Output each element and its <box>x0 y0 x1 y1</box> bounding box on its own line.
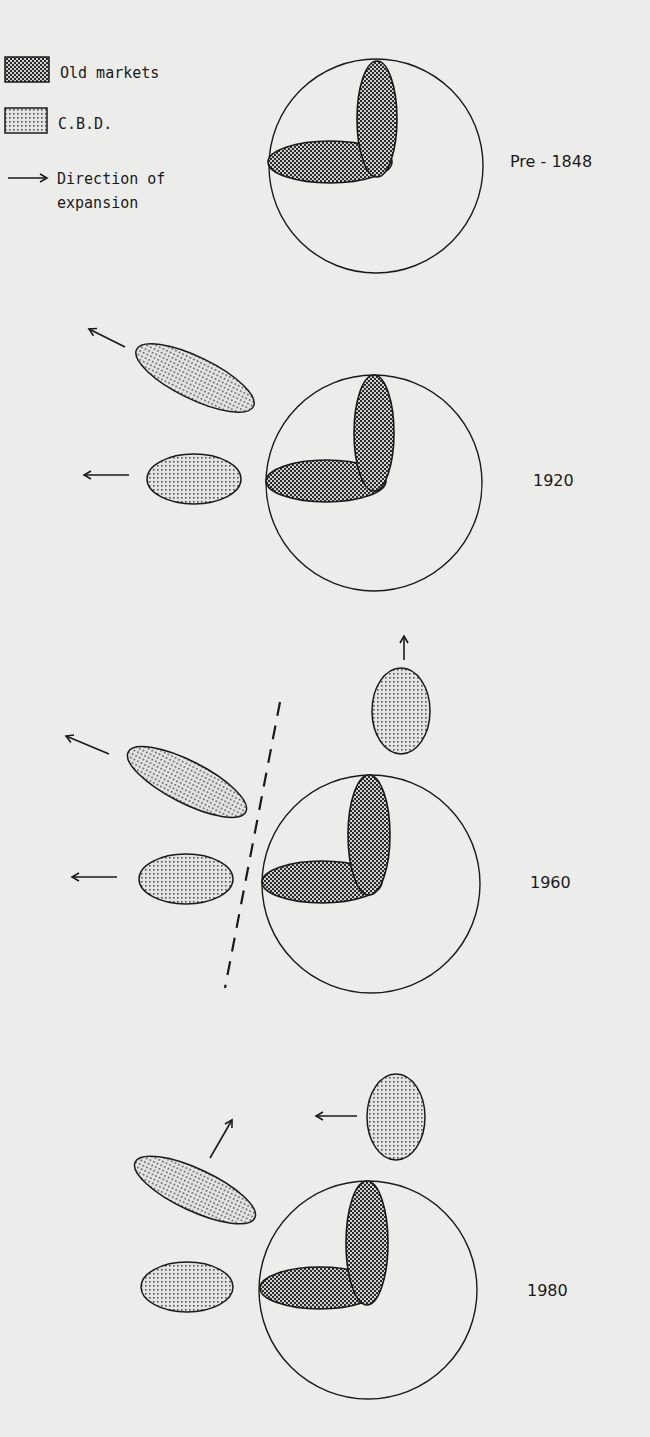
period-label: Pre - 1848 <box>510 152 592 171</box>
cbd-ellipse-tilted <box>126 1143 263 1237</box>
legend-cbd-label: C.B.D. <box>58 115 112 133</box>
legend-direction-label-line1: Direction of <box>57 170 165 188</box>
old-market-vertical <box>346 1181 388 1305</box>
legend-old-markets-label: Old markets <box>60 64 159 82</box>
cbd-ellipse-tilted <box>127 331 262 426</box>
legend-direction-label-line2: expansion <box>57 194 138 212</box>
old-market-vertical <box>354 375 394 491</box>
old-markets-swatch <box>5 57 49 82</box>
cbd-ellipse-tilted <box>119 733 256 830</box>
panel-1960: 1960 <box>66 636 571 993</box>
cbd-ellipse-west <box>141 1262 233 1312</box>
expansion-arrow-northeast-icon <box>210 1120 232 1158</box>
cbd-ellipse-west <box>147 454 241 504</box>
panel-1920: 1920 <box>84 329 574 591</box>
cbd-ellipse-north <box>367 1074 425 1160</box>
period-label: 1980 <box>527 1281 568 1300</box>
period-label: 1960 <box>530 873 571 892</box>
old-market-vertical <box>357 61 397 177</box>
period-label: 1920 <box>533 471 574 490</box>
expansion-arrow-northwest-icon <box>89 329 125 347</box>
panel-1980: 1980 <box>126 1074 567 1399</box>
panel-pre-1848: Pre - 1848 <box>268 59 592 273</box>
legend: Old markets C.B.D. Direction of expansio… <box>5 57 165 212</box>
dashed-boundary-line <box>225 702 280 988</box>
cbd-swatch <box>5 108 47 133</box>
cbd-ellipse-west <box>139 854 233 904</box>
old-market-vertical <box>348 775 390 895</box>
cbd-ellipse-north <box>372 668 430 754</box>
expansion-arrow-northwest-icon <box>66 736 109 754</box>
cbd-evolution-diagram: Old markets C.B.D. Direction of expansio… <box>0 0 650 1437</box>
